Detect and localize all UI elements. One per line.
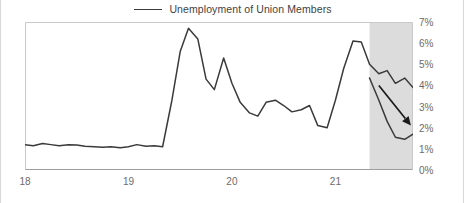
y-axis-tick-label: 6% bbox=[419, 38, 433, 49]
y-axis-tick-label: 3% bbox=[419, 101, 433, 112]
x-axis-tick-label: 21 bbox=[330, 176, 341, 187]
legend-label: Unemployment of Union Members bbox=[169, 3, 331, 15]
plot-frame bbox=[26, 23, 413, 170]
legend-line-swatch bbox=[134, 9, 162, 10]
y-axis-tick-label: 1% bbox=[419, 143, 433, 154]
plot-area bbox=[25, 22, 413, 170]
chart-card: Unemployment of Union Members 0%1%2%3%4%… bbox=[0, 0, 464, 203]
y-axis-tick-label: 0% bbox=[419, 165, 433, 176]
chart-legend: Unemployment of Union Members bbox=[1, 3, 464, 15]
y-axis-tick-label: 7% bbox=[419, 17, 433, 28]
x-axis-tick-label: 20 bbox=[226, 176, 237, 187]
x-axis-tick-label: 18 bbox=[19, 176, 30, 187]
data-series-line bbox=[25, 28, 413, 147]
forecast-shaded-region bbox=[370, 23, 413, 170]
y-axis-tick-label: 2% bbox=[419, 122, 433, 133]
x-axis-tick-label: 19 bbox=[123, 176, 134, 187]
y-axis-tick-label: 4% bbox=[419, 80, 433, 91]
forecast-band bbox=[370, 23, 413, 170]
y-axis-tick-label: 5% bbox=[419, 59, 433, 70]
line-chart-svg bbox=[25, 22, 413, 170]
